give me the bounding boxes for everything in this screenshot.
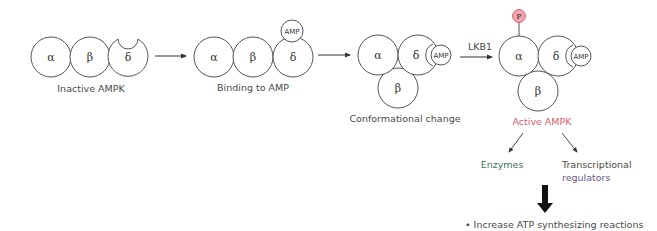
stage-active-ampk: P AMP α δ β Active AMPK <box>499 10 591 128</box>
delta-label: δ <box>553 50 560 63</box>
active-ampk-label: Active AMPK <box>512 116 572 127</box>
big-down-arrow-icon <box>537 185 553 213</box>
amp-label: AMP <box>433 52 448 60</box>
arrow-to-enzymes-icon <box>509 133 523 152</box>
alpha-label: α <box>374 49 382 62</box>
stage-label: Inactive AMPK <box>57 83 125 94</box>
delta-label: δ <box>290 51 297 64</box>
lkb1-label: LKB1 <box>468 41 492 52</box>
ampk-diagram: α β δ Inactive AMPK AMP α β δ Binding to… <box>0 0 657 231</box>
delta-label: δ <box>413 49 420 62</box>
stage-label: Conformational change <box>349 113 460 124</box>
delta-label: δ <box>125 51 132 64</box>
enzymes-label: Enzymes <box>481 159 524 170</box>
phosphate-label: P <box>516 12 522 21</box>
stage-conformational-change: AMP α δ β Conformational change <box>349 35 460 124</box>
beta-label: β <box>395 82 401 95</box>
regulators-label: regulators <box>562 172 610 183</box>
stage-inactive-ampk: α β δ Inactive AMPK <box>31 37 148 94</box>
alpha-label: α <box>515 50 523 63</box>
stage-binding-to-amp: AMP α β δ Binding to AMP <box>194 20 313 93</box>
beta-label: β <box>87 51 93 64</box>
beta-label: β <box>535 85 541 98</box>
outcome-text: • Increase ATP synthesizing reactions <box>465 219 643 230</box>
transcriptional-label: Transcriptional <box>561 159 632 170</box>
stage-label: Binding to AMP <box>217 82 289 93</box>
amp-label: AMP <box>284 28 299 36</box>
alpha-label: α <box>210 51 218 64</box>
arrow-to-regulators-icon <box>562 133 577 152</box>
alpha-label: α <box>47 51 55 64</box>
beta-label: β <box>250 51 256 64</box>
amp-label: AMP <box>573 53 588 61</box>
